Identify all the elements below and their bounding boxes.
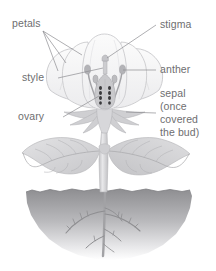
stem-and-leaves: [22, 132, 190, 192]
anther-left-inner: [93, 75, 98, 83]
soil-body: [26, 189, 192, 260]
soil-group: [26, 189, 192, 260]
label-sepal-line2: (once: [160, 100, 187, 112]
label-sepal-line1: sepal: [160, 87, 186, 99]
label-petals: petals: [12, 17, 41, 29]
label-stigma: stigma: [160, 18, 192, 30]
flower-anatomy-diagram: petals stigma style anther ovary sepal (…: [0, 0, 216, 271]
anther-left-outer: [85, 65, 91, 74]
label-ovary: ovary: [18, 110, 45, 122]
label-anther: anther: [160, 63, 191, 75]
label-sepal-line4: the bud): [160, 126, 199, 138]
style: [103, 61, 107, 74]
label-style: style: [22, 71, 44, 83]
leaf-left: [22, 138, 100, 174]
diagram-canvas: petals stigma style anther ovary sepal (…: [0, 0, 216, 271]
anther-right-inner: [112, 75, 117, 83]
anther-right-outer: [120, 65, 126, 74]
label-sepal-line3: covered: [160, 113, 198, 125]
leaf-right: [108, 138, 190, 175]
lower-stem: [99, 132, 108, 192]
stem-node: [99, 144, 110, 154]
